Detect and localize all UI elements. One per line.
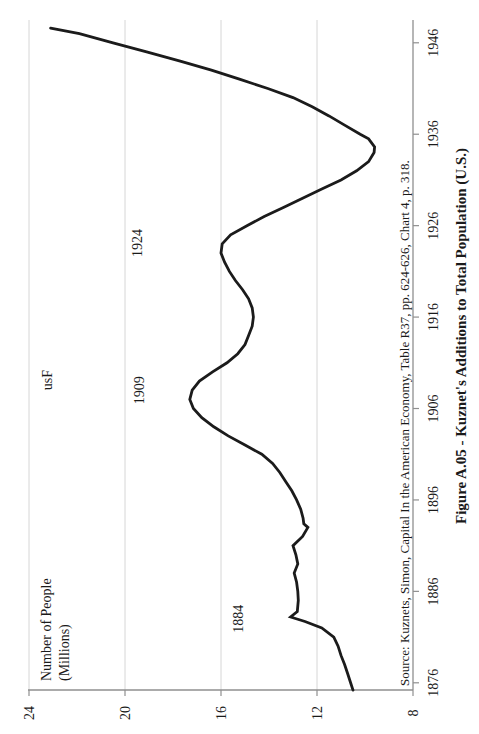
- tick-marks: [29, 43, 419, 696]
- source-citation: Source: Kuznets, Simon, Capital In the A…: [397, 160, 412, 686]
- annotation-usF: usF: [40, 370, 55, 390]
- gridlines: [29, 20, 317, 690]
- annotation-1909: 1909: [132, 376, 147, 404]
- x-tick-label-1906: 1906: [426, 395, 441, 423]
- chart-title: Figure A.05 - Kuznet's Additions to Tota…: [453, 148, 470, 524]
- x-tick-label-1916: 1916: [426, 303, 441, 331]
- y-tick-label-16: 16: [214, 706, 229, 720]
- annotation-1884: 1884: [231, 605, 246, 633]
- y-axis-title-line2: (Millions): [57, 624, 73, 681]
- annotations: 188419091924usF: [40, 229, 246, 633]
- y-tick-label-12: 12: [310, 706, 325, 720]
- x-tick-label-1926: 1926: [426, 212, 441, 240]
- kuznets-line-chart: 18761886189619061916192619361946 8121620…: [0, 0, 479, 734]
- data-line-population-additions: [51, 28, 375, 690]
- x-tick-label-1936: 1936: [426, 120, 441, 148]
- y-tick-label-8: 8: [406, 710, 421, 717]
- x-axis-tick-labels: 18761886189619061916192619361946: [426, 29, 441, 697]
- x-tick-label-1876: 1876: [426, 669, 441, 697]
- y-tick-label-20: 20: [118, 706, 133, 720]
- y-axis-tick-labels: 812162024: [22, 706, 421, 720]
- x-tick-label-1896: 1896: [426, 486, 441, 514]
- annotation-1924: 1924: [130, 229, 145, 257]
- page: 18761886189619061916192619361946 8121620…: [0, 0, 479, 734]
- x-tick-label-1946: 1946: [426, 29, 441, 57]
- y-axis-title-line1: Number of People: [39, 578, 54, 681]
- rotated-chart-canvas: 18761886189619061916192619361946 8121620…: [0, 0, 479, 734]
- y-tick-label-24: 24: [22, 706, 37, 720]
- x-tick-label-1886: 1886: [426, 577, 441, 605]
